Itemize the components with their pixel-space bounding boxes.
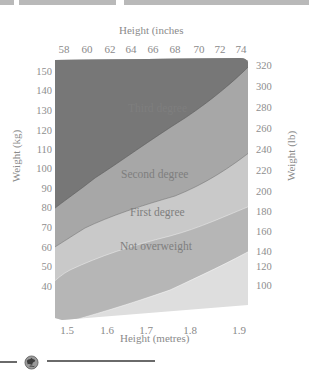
- x-bottom-tick: 1.9: [232, 324, 246, 336]
- label-second-degree: Second degree: [121, 168, 188, 181]
- x-bottom-axis-title: Height (metres): [120, 332, 189, 344]
- label-third-degree: Third degree: [128, 102, 187, 115]
- footer-rule-left: [0, 361, 17, 363]
- bmi-chart-plot: Third degree Second degree First degree …: [0, 0, 309, 372]
- footer-rule-right: [47, 360, 155, 362]
- label-not-overweight: Not overweight: [120, 240, 193, 253]
- globe-icon: [24, 355, 39, 370]
- x-bottom-tick: 1.5: [60, 324, 74, 336]
- x-bottom-tick: 1.6: [100, 324, 114, 336]
- label-first-degree: First degree: [130, 206, 185, 219]
